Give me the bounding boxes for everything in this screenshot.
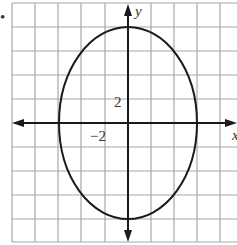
tick-label-y-2: 2 (114, 94, 122, 110)
x-axis-label: x (231, 127, 237, 143)
tick-label-x-neg2: −2 (90, 128, 106, 144)
bullet-marker: • (0, 9, 5, 25)
x-axis-left-arrow-icon (12, 119, 24, 127)
y-axis-up-arrow-icon (124, 4, 132, 16)
y-axis-label: y (133, 3, 142, 19)
axes (16, 8, 233, 238)
ellipse-graph: • y x 2 −2 (0, 0, 237, 245)
y-axis-down-arrow-icon (124, 230, 132, 242)
x-axis-right-arrow-icon (225, 119, 237, 127)
